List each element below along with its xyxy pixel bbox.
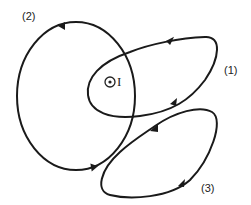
- current-dot-icon: [105, 77, 115, 87]
- loop-3-label: (3): [201, 182, 214, 194]
- loop-1-arrow-bottom-icon: [170, 98, 177, 106]
- loop-3: [101, 109, 217, 197]
- loop-2-label: (2): [22, 10, 35, 22]
- loop-1-label: (1): [224, 64, 237, 76]
- current-label: I: [117, 74, 121, 90]
- loop-3-arrow-bottom-icon: [178, 179, 185, 187]
- loop-2: [17, 22, 135, 171]
- loop-1: [88, 37, 217, 117]
- loop-1-arrow-top-icon: [165, 37, 176, 46]
- diagram-canvas: [0, 0, 251, 205]
- loop-2-arrow-bottom-icon: [90, 162, 98, 171]
